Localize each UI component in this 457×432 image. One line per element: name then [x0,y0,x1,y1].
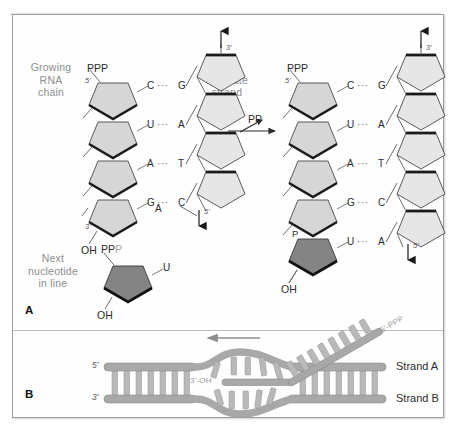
nascent-rna-3prime-oh: 3'-OH [190,375,212,388]
left-duplex-rungs [112,370,190,396]
figure-root: A Growing RNA chain DNA template strand … [0,0,457,432]
strand-a-label: Strand A [396,360,438,372]
panelb-left-3prime: 3' [92,392,98,402]
strand-b-right-backbone [288,395,386,403]
strand-b-label: Strand B [396,392,439,404]
nascent-rna-inside [222,379,292,386]
panelb-left-5prime: 5' [92,360,98,370]
nascent-rna-exiting [279,314,384,387]
strand-a-left-backbone [104,363,196,371]
transcription-bubble-graphic [0,0,457,432]
strand-b-left-backbone [104,395,196,403]
